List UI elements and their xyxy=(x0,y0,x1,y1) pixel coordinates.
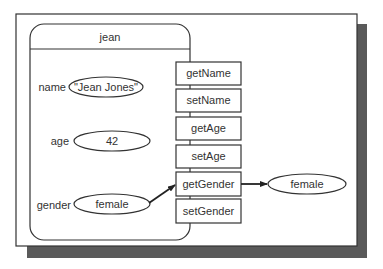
object-diagram: jean name "Jean Jones" age 42 gender fem… xyxy=(0,0,383,269)
method-setAge: setAge xyxy=(176,145,241,168)
svg-text:getName: getName xyxy=(186,67,231,79)
svg-text:setGender: setGender xyxy=(183,205,235,217)
returned-value: female xyxy=(290,178,323,190)
svg-text:getGender: getGender xyxy=(183,178,235,190)
svg-text:getAge: getAge xyxy=(191,122,226,134)
method-getName: getName xyxy=(176,62,241,85)
svg-text:setName: setName xyxy=(186,94,230,106)
method-getGender: getGender xyxy=(176,172,241,196)
method-getAge: getAge xyxy=(176,117,241,140)
field-label-age: age xyxy=(51,135,69,147)
method-setGender: setGender xyxy=(176,199,241,223)
field-label-gender: gender xyxy=(37,199,72,211)
svg-text:setAge: setAge xyxy=(191,150,225,162)
field-value-name: "Jean Jones" xyxy=(74,81,138,93)
object-name: jean xyxy=(99,31,121,43)
field-value-age: 42 xyxy=(106,135,118,147)
method-setName: setName xyxy=(176,89,241,112)
field-value-gender: female xyxy=(95,198,128,210)
field-label-name: name xyxy=(38,81,66,93)
